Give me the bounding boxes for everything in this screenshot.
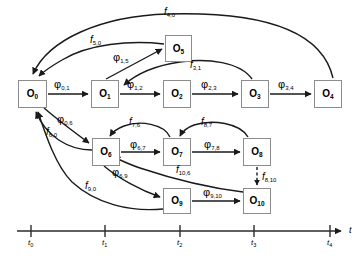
node-o6: O6 xyxy=(92,138,120,166)
edge-label-subscript: 1,5 xyxy=(120,58,128,64)
node-label: O7 xyxy=(171,147,182,157)
edge-label-f-9-0: f9,0 xyxy=(85,181,96,191)
node-label: O4 xyxy=(322,89,333,99)
edge-label-subscript: 3,4 xyxy=(285,85,293,91)
axis-tick-subscript: 4 xyxy=(329,242,332,248)
node-o5: O5 xyxy=(165,35,192,62)
edge-label-subscript: 0,1 xyxy=(61,85,69,91)
axis-tick-subscript: 1 xyxy=(104,242,107,248)
edge-label-phi-6-9: φ6,9 xyxy=(112,167,127,178)
node-label-subscript: 9 xyxy=(179,200,183,207)
axis-tick-label-1: t1 xyxy=(102,239,107,247)
axis-tick-label-3: t3 xyxy=(251,239,256,247)
edge-label-subscript: 9,10 xyxy=(210,193,222,199)
axis-tick-subscript: 3 xyxy=(253,242,256,248)
edge-label-subscript: 1,2 xyxy=(134,85,142,91)
node-label: O0 xyxy=(27,89,38,99)
node-label: O5 xyxy=(173,44,184,54)
edge-label-f-7-6: f7,6 xyxy=(129,117,140,127)
edge-label-phi-1-2: φ1,2 xyxy=(127,79,142,90)
axis-tick-label-4: t4 xyxy=(327,239,332,247)
edge-label-phi-7-8: φ7,8 xyxy=(204,139,219,150)
node-label: O9 xyxy=(171,196,182,206)
node-o3: O3 xyxy=(241,80,269,108)
node-label-subscript: 10 xyxy=(257,200,264,207)
axis-tick-subscript: 2 xyxy=(179,242,182,248)
edge-label-f-8-10: f8,10 xyxy=(262,172,276,182)
edge-label-phi-3-4: φ3,4 xyxy=(278,79,293,90)
edge-label-subscript: 7,6 xyxy=(132,122,140,128)
node-label: O8 xyxy=(251,147,262,157)
edge-label-subscript: 8,7 xyxy=(204,122,212,128)
edge-label-subscript: 2,3 xyxy=(208,85,216,91)
edge-label-f-3-1: f3,1 xyxy=(190,60,201,70)
node-label-subscript: 6 xyxy=(108,151,112,158)
node-o0: O0 xyxy=(18,80,47,108)
edge-label-subscript: 5,0 xyxy=(93,40,101,46)
edge-label-phi-1-5: φ1,5 xyxy=(113,52,128,63)
edge-f-8-7 xyxy=(180,122,248,137)
edge-label-f-10-6: f10,6 xyxy=(176,165,190,175)
axis-tick-label-0: t0 xyxy=(28,239,33,247)
edge-label-f-6-0: f6,0 xyxy=(46,127,57,137)
edge-label-subscript: 6,0 xyxy=(49,132,57,138)
node-label: O1 xyxy=(99,89,110,99)
edge-label-f-4-0: f4,0 xyxy=(164,7,175,17)
node-o2: O2 xyxy=(163,80,191,108)
node-label-subscript: 2 xyxy=(179,93,183,100)
edge-label-f-8-7: f8,7 xyxy=(201,117,212,127)
node-label-subscript: 7 xyxy=(179,151,183,158)
edge-label-subscript: 8,10 xyxy=(265,177,277,183)
edge-label-subscript: 10,6 xyxy=(179,170,191,176)
node-o4: O4 xyxy=(314,80,342,108)
axis-name-label: t xyxy=(349,226,352,235)
node-label: O6 xyxy=(100,147,111,157)
edge-label-subscript: 6,7 xyxy=(137,145,145,151)
node-o7: O7 xyxy=(163,138,191,166)
edge-label-phi-6-7: φ6,7 xyxy=(130,139,145,150)
axis-tick-label-2: t2 xyxy=(177,239,182,247)
time-axis xyxy=(17,225,341,237)
edge-label-f-5-0: f5,0 xyxy=(90,35,101,45)
edge-label-subscript: 9,0 xyxy=(88,186,96,192)
node-o9: O9 xyxy=(163,188,191,214)
edge-label-phi-0-1: φ0,1 xyxy=(54,79,69,90)
node-label: O3 xyxy=(249,89,260,99)
edge-label-subscript: 3,1 xyxy=(193,65,201,71)
edge-label-phi-9-10: φ9,10 xyxy=(203,187,222,198)
edge-label-subscript: 7,8 xyxy=(211,145,219,151)
node-o10: O10 xyxy=(243,188,271,214)
node-label-subscript: 4 xyxy=(330,93,334,100)
node-o1: O1 xyxy=(91,80,119,108)
edge-label-subscript: 6,9 xyxy=(119,173,127,179)
node-label: O10 xyxy=(249,196,264,206)
node-label-subscript: 0 xyxy=(35,93,39,100)
edge-label-subscript: 4,0 xyxy=(167,12,175,18)
node-o8: O8 xyxy=(243,138,271,166)
node-label-subscript: 5 xyxy=(181,48,185,55)
node-label: O2 xyxy=(171,89,182,99)
axis-tick-subscript: 0 xyxy=(30,242,33,248)
node-label-subscript: 3 xyxy=(257,93,261,100)
node-label-subscript: 1 xyxy=(107,93,111,100)
state-transition-diagram: O0O1O2O3O4O5O6O7O8O9O10 f4,0f5,0φ1,5f3,1… xyxy=(0,0,363,258)
edge-label-phi-2-3: φ2,3 xyxy=(201,79,216,90)
edge-label-subscript: 0,6 xyxy=(64,120,72,126)
node-label-subscript: 8 xyxy=(259,151,263,158)
edge-label-phi-0-6: φ0,6 xyxy=(57,114,72,125)
